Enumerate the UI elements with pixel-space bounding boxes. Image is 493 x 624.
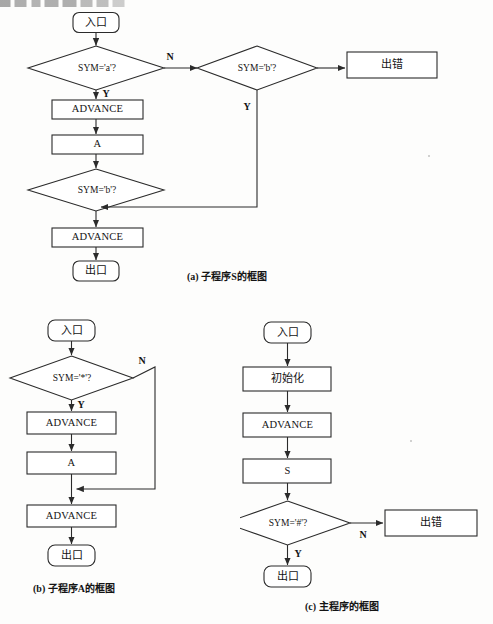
node-advance-a-1-label: ADVANCE (46, 417, 97, 428)
node-advance-main-label: ADVANCE (262, 419, 313, 430)
scan-speck (428, 155, 430, 157)
edge-label-star-no: N (138, 355, 146, 366)
node-call-s-main-label: S (284, 465, 290, 476)
caption-subroutine-s: (a) 子程序S的框图 (187, 268, 267, 283)
caption-main-program: (c) 主程序的框图 (305, 598, 379, 613)
node-exit-main-label: 出口 (277, 569, 299, 582)
scan-speck (410, 440, 412, 442)
flowchart-page: 入口 SYM='a'? N SYM='b'? 出错 Y ADVANCE A SY… (0, 0, 493, 624)
diagram-subroutine-a: 入口 SYM='*'? N Y ADVANCE A ADVANCE 出口 (0, 312, 250, 592)
edge-label-hash-yes: Y (294, 548, 302, 559)
diagram-subroutine-s: 入口 SYM='a'? N SYM='b'? 出错 Y ADVANCE A SY… (0, 0, 493, 295)
edge-label-a-no: N (166, 51, 174, 62)
node-cond-sym-a-label: SYM='a'? (78, 63, 116, 73)
node-entry-s-label: 入口 (85, 16, 107, 28)
node-cond-sym-b-low-label: SYM='b'? (78, 185, 116, 195)
caption-subroutine-a: (b) 子程序A的框图 (33, 580, 115, 595)
node-advance-s-1-label: ADVANCE (72, 103, 123, 114)
node-advance-a-2-label: ADVANCE (46, 510, 97, 521)
edge-label-hash-no: N (359, 529, 367, 540)
node-cond-sym-b-right-label: SYM='b'? (238, 63, 276, 73)
node-init-main-label: 初始化 (271, 371, 304, 384)
node-entry-main-label: 入口 (277, 326, 299, 338)
node-cond-sym-star-label: SYM='*'? (53, 373, 91, 383)
node-exit-a-label: 出口 (61, 548, 83, 561)
node-call-a-b-label: A (68, 457, 76, 468)
node-advance-s-2-label: ADVANCE (72, 231, 123, 242)
node-call-a-s-label: A (94, 138, 102, 149)
edge-label-star-yes: Y (77, 399, 85, 410)
node-exit-s-label: 出口 (85, 263, 107, 276)
diagram-main-program: 入口 初始化 ADVANCE S SYM='#'? N 出错 Y 出口 (240, 310, 493, 600)
node-error-s-label: 出错 (381, 57, 403, 70)
node-cond-sym-hash-label: SYM='#'? (269, 518, 307, 528)
node-error-main-label: 出错 (420, 515, 442, 528)
edge-label-a-yes: Y (102, 88, 110, 99)
node-entry-a-label: 入口 (61, 324, 83, 336)
edge-label-b-right-yes: Y (243, 101, 251, 112)
